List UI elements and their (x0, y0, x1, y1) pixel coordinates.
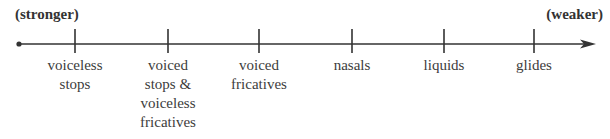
tick-marks (75, 29, 534, 53)
tick-label: glides (479, 56, 589, 75)
tick-label-line: voiceless (113, 94, 223, 113)
tick-label-line: fricatives (113, 113, 223, 132)
tick-label-line: fricatives (204, 75, 314, 94)
tick-label-line: glides (479, 56, 589, 75)
